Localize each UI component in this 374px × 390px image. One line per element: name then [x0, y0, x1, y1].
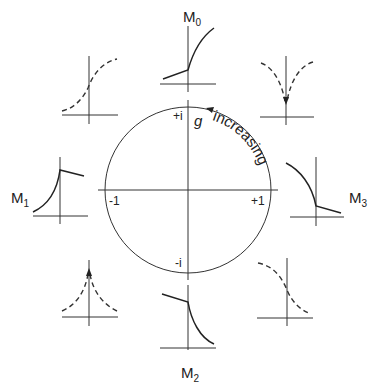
phase-circle-group: -1 +1 +i -i g increasing: [98, 100, 278, 280]
m3-label: M3: [349, 189, 368, 209]
m2-label: M2: [181, 364, 200, 384]
sketch-bottom-right: [257, 258, 313, 326]
label-pos-real: +1: [251, 194, 265, 208]
m0-label: M0: [183, 8, 202, 28]
bl-cusp-arrow-icon: [86, 268, 92, 276]
sketch-m1: M1: [11, 157, 88, 224]
sketch-top-right: [260, 56, 314, 125]
diagram: -1 +1 +i -i g increasing M0 M3: [0, 0, 374, 390]
bl-curve-left: [62, 274, 88, 311]
sketch-m2: M2: [160, 285, 216, 384]
label-neg-imag: -i: [175, 256, 182, 270]
br-curve: [258, 263, 311, 314]
label-neg-real: -1: [109, 194, 120, 208]
tr-curve-right: [287, 62, 313, 101]
direction-arrow-icon: [206, 107, 214, 113]
sketch-bottom-left: [62, 260, 118, 326]
tr-curve-left: [261, 63, 285, 101]
label-parameter-g: g: [194, 112, 203, 129]
sketch-top-left: [62, 56, 118, 124]
tr-cusp-arrow-icon: [283, 97, 289, 105]
label-pos-imag: +i: [173, 109, 183, 123]
sketch-m0: M0: [160, 8, 216, 92]
sketch-m3: M3: [286, 157, 368, 226]
label-increasing: increasing: [211, 107, 272, 167]
increasing-text: increasing: [211, 107, 272, 167]
bl-curve-right: [90, 274, 117, 311]
m1-curve: [33, 170, 84, 212]
m1-label: M1: [11, 189, 30, 209]
m3-curve: [286, 163, 341, 213]
